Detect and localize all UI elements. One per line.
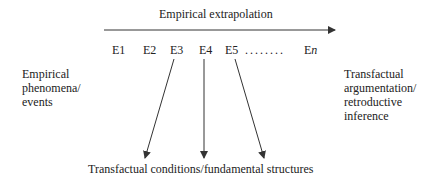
- event-en: En: [304, 43, 317, 57]
- ellipsis-dots: ........: [245, 43, 285, 57]
- top-label: Empirical extrapolation: [159, 7, 273, 21]
- event-e5: E5: [225, 43, 238, 57]
- right-label: Transfactual argumentation/ retroductive…: [344, 67, 416, 123]
- bottom-label: Transfactual conditions/fundamental stru…: [88, 162, 314, 176]
- arrow-e3: [145, 59, 174, 158]
- event-e4: E4: [199, 43, 212, 57]
- event-e1: E1: [112, 43, 125, 57]
- arrow-e5: [235, 59, 264, 158]
- event-e2: E2: [143, 43, 156, 57]
- event-en-suffix: n: [311, 43, 317, 57]
- event-e3: E3: [170, 43, 183, 57]
- left-label: Empirical phenomena/ events: [22, 67, 81, 109]
